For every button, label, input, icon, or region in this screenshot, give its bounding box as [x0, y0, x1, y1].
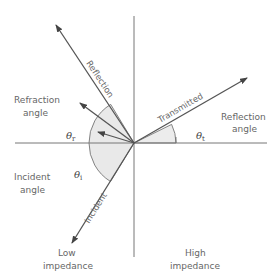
theta-i-subscript: i [80, 174, 83, 182]
reflection-angle-label-line1: Reflection [221, 112, 266, 122]
incident-angle-label-line2: angle [20, 185, 45, 195]
theta-i-symbol: θi [74, 169, 83, 182]
reflection-angle-label-line2: angle [232, 124, 257, 134]
high-impedance-label-line2: impedance [170, 261, 220, 271]
transmitted-ray [134, 78, 247, 143]
impedance-reflection-diagram: Reflection Transmitted Incident Refracti… [0, 0, 273, 277]
theta-r-subscript: r [72, 135, 76, 143]
transmitted-ray-label: Transmitted [155, 91, 205, 125]
low-impedance-label-line1: Low [58, 248, 76, 258]
transmitted-angle-sector [134, 124, 176, 143]
refraction-angle-label-line1: Refraction [14, 95, 60, 105]
incident-angle-label-line1: Incident [14, 172, 51, 182]
theta-t-subscript: t [202, 135, 205, 143]
incident-ray-label: Incident [82, 190, 109, 225]
refraction-angle-label-line2: angle [23, 108, 48, 118]
reflection-ray-label: Reflection [84, 59, 116, 100]
theta-t-symbol: θt [196, 130, 205, 143]
low-impedance-label-line2: impedance [43, 261, 93, 271]
theta-r-symbol: θr [66, 130, 76, 143]
high-impedance-label-line1: High [185, 248, 206, 258]
